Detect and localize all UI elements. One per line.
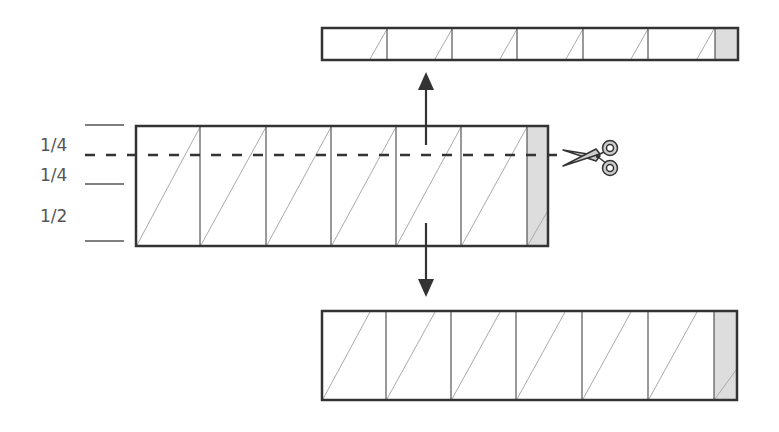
top-strip-diagonals (370, 29, 714, 59)
arrow-up-icon (418, 72, 434, 145)
arrow-down-icon (418, 223, 434, 297)
cutting-diagram: 1/4 1/4 1/2 (0, 0, 779, 432)
bottom-strip-dividers (386, 311, 714, 400)
label-middle-quarter: 1/4 (40, 165, 67, 185)
main-strip-outline (136, 126, 548, 246)
bottom-strip-diagonals (323, 312, 736, 399)
scissors-icon (563, 141, 618, 176)
bottom-strip-outline (322, 311, 737, 400)
bottom-strip (322, 311, 737, 400)
top-strip-shaded-cell (715, 28, 738, 60)
bottom-strip-shaded-cell (714, 311, 737, 400)
fraction-scale: 1/4 1/4 1/2 (40, 125, 124, 241)
top-strip (322, 28, 738, 60)
top-strip-dividers (387, 28, 715, 60)
main-strip (136, 126, 548, 246)
label-top-quarter: 1/4 (40, 135, 67, 155)
label-bottom-half: 1/2 (40, 206, 67, 226)
main-strip-diagonals (137, 127, 547, 245)
